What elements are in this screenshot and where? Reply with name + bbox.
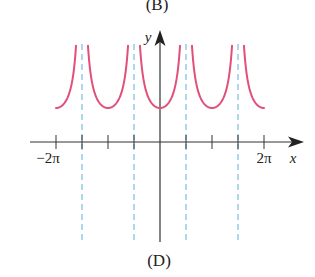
curve-branch	[88, 46, 128, 108]
top-caption: (B)	[146, 0, 169, 14]
bottom-caption: (D)	[147, 251, 171, 270]
curve-branch	[192, 46, 232, 108]
x-axis-label: x	[289, 150, 297, 166]
curve-branch	[56, 46, 76, 108]
sec-graph: (B) y x −2π 2π (D)	[0, 0, 315, 277]
curve-branch	[244, 46, 264, 108]
x-tick-label-neg-2pi: −2π	[36, 150, 60, 166]
x-tick-label-2pi: 2π	[256, 150, 272, 166]
y-axis-label: y	[143, 29, 152, 45]
